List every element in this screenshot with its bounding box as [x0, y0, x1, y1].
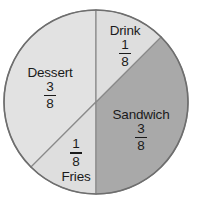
pie-label-fries-name: Fries	[52, 170, 100, 184]
pie-label-sandwich: Sandwich 3 8	[104, 108, 178, 153]
pie-label-fries: 1 8 Fries	[52, 137, 100, 183]
fraction-numerator: 3	[135, 122, 147, 136]
fraction-denominator: 8	[119, 55, 131, 69]
pie-chart: Drink 1 8 Sandwich 3 8 Dessert 3 8 1 8 F…	[0, 0, 197, 209]
pie-label-dessert-fraction: 3 8	[44, 80, 56, 112]
pie-label-sandwich-fraction: 3 8	[135, 122, 147, 154]
pie-label-sandwich-name: Sandwich	[104, 108, 178, 122]
fraction-numerator: 1	[119, 38, 131, 52]
pie-label-drink-name: Drink	[98, 24, 152, 38]
pie-label-fries-fraction: 1 8	[70, 137, 82, 169]
pie-label-drink: Drink 1 8	[98, 24, 152, 69]
pie-label-drink-fraction: 1 8	[119, 38, 131, 70]
fraction-denominator: 8	[70, 155, 82, 169]
fraction-numerator: 3	[44, 80, 56, 94]
pie-label-dessert: Dessert 3 8	[14, 66, 86, 111]
fraction-numerator: 1	[70, 137, 82, 151]
fraction-denominator: 8	[135, 139, 147, 153]
fraction-denominator: 8	[44, 97, 56, 111]
pie-label-dessert-name: Dessert	[14, 66, 86, 80]
